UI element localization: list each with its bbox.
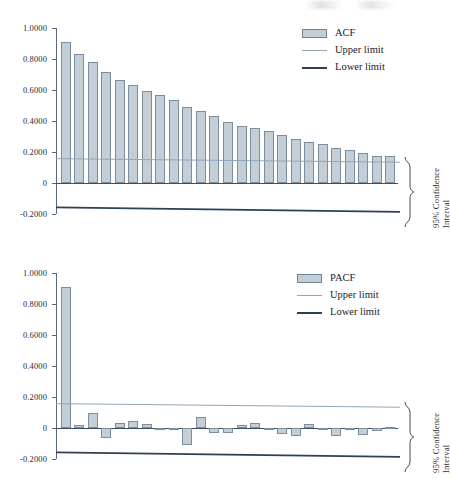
legend-label-lower: Lower limit: [330, 307, 380, 318]
legend-item-series[interactable]: PACF: [297, 271, 380, 286]
upper-limit-line: [56, 159, 400, 163]
legend-label-upper: Upper limit: [330, 290, 379, 301]
ci-caption-line1: 95% Confidence: [431, 413, 441, 473]
lower-limit-line: [56, 452, 400, 456]
acf-swatch-icon: [302, 29, 327, 38]
pacf-plot-area: 1.00000.80000.60000.40000.20000-0.2000: [0, 253, 449, 491]
ci-caption: 95% Confidence Interval: [432, 168, 451, 228]
lower-limit-line: [56, 207, 400, 211]
legend-item-series[interactable]: ACF: [302, 26, 385, 41]
legend-label-series: ACF: [335, 28, 355, 39]
pacf-legend: PACF Upper limit Lower limit: [297, 271, 380, 322]
upper-limit-line: [56, 404, 400, 408]
ci-caption-line2: Interval: [442, 168, 451, 228]
brace-icon: [404, 156, 416, 228]
upper-limit-line-icon: [297, 291, 322, 300]
legend-item-lower-limit[interactable]: Lower limit: [302, 60, 385, 75]
lower-limit-line-icon: [302, 63, 327, 72]
legend-item-upper-limit[interactable]: Upper limit: [302, 43, 385, 58]
ci-caption-line1: 95% Confidence: [431, 168, 441, 228]
brace-icon: [404, 401, 416, 473]
lower-limit-line-icon: [297, 308, 322, 317]
legend-label-lower: Lower limit: [335, 62, 385, 73]
upper-limit-line-icon: [302, 46, 327, 55]
ci-caption: 95% Confidence Interval: [432, 413, 451, 473]
limit-lines: [0, 253, 449, 491]
legend-item-lower-limit[interactable]: Lower limit: [297, 305, 380, 320]
pacf-chart: 1.00000.80000.60000.40000.20000-0.2000 P…: [0, 253, 449, 491]
legend-label-series: PACF: [330, 273, 355, 284]
acf-chart: 1.00000.80000.60000.40000.20000-0.2000 A…: [0, 8, 449, 248]
legend-label-upper: Upper limit: [335, 45, 384, 56]
legend-item-upper-limit[interactable]: Upper limit: [297, 288, 380, 303]
ci-caption-line2: Interval: [442, 413, 451, 473]
acf-legend: ACF Upper limit Lower limit: [302, 26, 385, 77]
pacf-swatch-icon: [297, 274, 322, 283]
